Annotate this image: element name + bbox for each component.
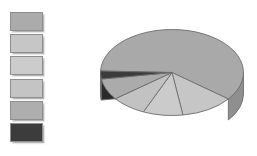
pie-chart-figure: Series 1Series 2Series 3Series 4Series 5… — [0, 0, 257, 156]
pie-chart-graphic: Series 1: 60Series 2: 12Series 3: 9Serie… — [0, 0, 257, 156]
